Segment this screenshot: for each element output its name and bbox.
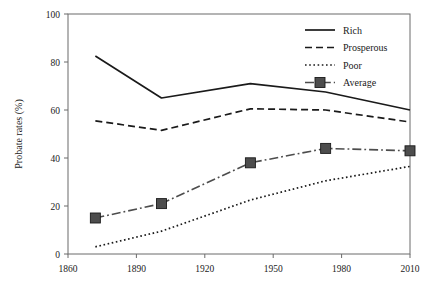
x-tick-label: 2010 [401, 264, 420, 274]
x-tick-label: 1920 [195, 264, 214, 274]
data-point-marker [405, 146, 415, 156]
y-tick-label: 20 [51, 202, 61, 212]
y-tick-label: 60 [51, 106, 61, 116]
data-point-marker [245, 158, 255, 168]
x-tick-label: 1980 [332, 264, 351, 274]
y-tick-label: 80 [51, 58, 61, 68]
y-tick-label: 0 [55, 250, 60, 260]
probate-rates-line-chart: 020406080100 186018901920195019802010 Pr… [0, 0, 430, 293]
legend-label-prosperous: Prosperous [343, 42, 388, 53]
y-tick-label: 40 [51, 154, 61, 164]
y-tick-label: 100 [46, 10, 61, 20]
data-point-marker [90, 213, 100, 223]
data-point-marker [321, 143, 331, 153]
y-axis-title: Probate rates (%) [13, 99, 25, 168]
legend-label-average: Average [343, 77, 377, 88]
x-tick-label: 1890 [127, 264, 146, 274]
x-tick-label: 1860 [59, 264, 78, 274]
series-line-prosperous [95, 109, 410, 131]
chart-legend: RichProsperousPoorAverage [305, 25, 388, 89]
legend-label-poor: Poor [343, 60, 363, 71]
legend-marker-average [315, 78, 325, 88]
legend-label-rich: Rich [343, 25, 362, 36]
chart-container: 020406080100 186018901920195019802010 Pr… [0, 0, 430, 293]
x-axis-ticks: 186018901920195019802010 [59, 254, 420, 274]
y-axis-ticks: 020406080100 [46, 10, 68, 260]
x-tick-label: 1950 [264, 264, 283, 274]
series-line-poor [95, 166, 410, 246]
data-point-marker [156, 199, 166, 209]
